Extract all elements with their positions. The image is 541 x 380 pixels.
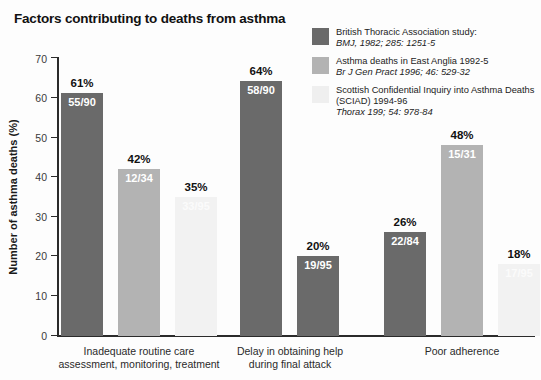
y-tick-label-10: 10 bbox=[35, 290, 47, 302]
bar-frac-label: 17/95 bbox=[505, 267, 533, 279]
bar-frac-label: 55/90 bbox=[68, 96, 96, 108]
y-axis-line bbox=[57, 57, 59, 336]
legend-item-bta[interactable]: British Thoracic Association study: BMJ,… bbox=[312, 27, 540, 50]
bar-pct-label: 48% bbox=[450, 129, 473, 141]
legend-label-east-anglia: Asthma deaths in East Anglia 1992-5 Br J… bbox=[336, 56, 488, 79]
bar-group2-series2[interactable]: 18% 17/95 bbox=[498, 264, 540, 336]
bar-pct-label: 64% bbox=[249, 65, 272, 77]
bar-frac-label: 58/90 bbox=[247, 84, 275, 96]
bar-group0-series0[interactable]: 61% 55/90 bbox=[61, 93, 103, 336]
legend-swatch-icon bbox=[312, 28, 329, 45]
y-axis-title: Number of asthma deaths (%) bbox=[7, 119, 19, 274]
y-tick-40 bbox=[51, 176, 57, 177]
y-tick-70 bbox=[51, 57, 57, 58]
x-category-label-1: Delay in obtaining help during final att… bbox=[214, 345, 366, 371]
bar-pct-label: 20% bbox=[306, 240, 329, 252]
y-tick-label-60: 60 bbox=[35, 92, 47, 104]
x-category-label-0: Inadequate routine care assessment, moni… bbox=[35, 345, 243, 371]
bar-pct-label: 26% bbox=[393, 216, 416, 228]
y-tick-0 bbox=[51, 335, 57, 336]
bar-group2-series1[interactable]: 48% 15/31 bbox=[441, 145, 483, 336]
y-tick-label-20: 20 bbox=[35, 250, 47, 262]
legend-line2: Br J Gen Pract 1996; 46: 529-32 bbox=[336, 67, 488, 78]
bar-group0-series2[interactable]: 35% 33/95 bbox=[175, 197, 217, 336]
legend-swatch-icon bbox=[312, 57, 329, 74]
bar-frac-label: 12/34 bbox=[125, 172, 153, 184]
y-tick-30 bbox=[51, 216, 57, 217]
legend-label-bta: British Thoracic Association study: BMJ,… bbox=[336, 27, 477, 50]
legend-label-sciad: Scottish Confidential Inquiry into Asthm… bbox=[336, 85, 534, 119]
legend-line2: (SCIAD) 1994-96 bbox=[336, 96, 534, 107]
legend-line1: Asthma deaths in East Anglia 1992-5 bbox=[336, 56, 488, 67]
bar-frac-label: 33/95 bbox=[182, 200, 210, 212]
x-category-label-2: Poor adherence bbox=[382, 345, 541, 358]
legend-line1: British Thoracic Association study: bbox=[336, 27, 477, 38]
bar-group0-series1[interactable]: 42% 12/34 bbox=[118, 169, 160, 336]
legend-line3: Thorax 199; 54: 978-84 bbox=[336, 107, 534, 118]
bar-pct-label: 61% bbox=[70, 77, 93, 89]
y-tick-50 bbox=[51, 137, 57, 138]
bar-frac-label: 19/95 bbox=[304, 259, 332, 271]
bar-frac-label: 22/84 bbox=[391, 235, 419, 247]
y-tick-10 bbox=[51, 295, 57, 296]
y-tick-label-50: 50 bbox=[35, 132, 47, 144]
legend-line2: BMJ, 1982; 285: 1251-5 bbox=[336, 38, 477, 49]
legend-item-east-anglia[interactable]: Asthma deaths in East Anglia 1992-5 Br J… bbox=[312, 56, 540, 79]
bar-pct-label: 35% bbox=[184, 181, 207, 193]
bar-pct-label: 18% bbox=[507, 248, 530, 260]
bar-frac-label: 15/31 bbox=[448, 148, 476, 160]
bar-group1-series0[interactable]: 64% 58/90 bbox=[240, 81, 282, 336]
chart-legend: British Thoracic Association study: BMJ,… bbox=[312, 27, 540, 125]
y-tick-label-40: 40 bbox=[35, 171, 47, 183]
bar-group2-series0[interactable]: 26% 22/84 bbox=[384, 232, 426, 336]
y-tick-60 bbox=[51, 97, 57, 98]
legend-item-sciad[interactable]: Scottish Confidential Inquiry into Asthm… bbox=[312, 85, 540, 119]
y-tick-20 bbox=[51, 255, 57, 256]
legend-line1: Scottish Confidential Inquiry into Asthm… bbox=[336, 85, 534, 96]
chart-title: Factors contributing to deaths from asth… bbox=[14, 11, 285, 26]
legend-swatch-icon bbox=[312, 86, 329, 103]
bar-group1-series2[interactable]: 20% 19/95 bbox=[297, 256, 339, 336]
bar-pct-label: 42% bbox=[127, 153, 150, 165]
y-tick-label-30: 30 bbox=[35, 211, 47, 223]
y-tick-label-0: 0 bbox=[41, 330, 47, 342]
chart-figure: Factors contributing to deaths from asth… bbox=[0, 0, 541, 380]
y-tick-label-70: 70 bbox=[35, 53, 47, 65]
